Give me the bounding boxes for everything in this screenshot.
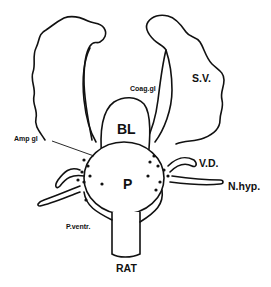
left-seminal-vesicle xyxy=(32,17,106,140)
right-hypogastric-nerve xyxy=(170,176,223,185)
right-seminal-vesicle xyxy=(146,15,224,144)
label-bladder: BL xyxy=(117,121,136,137)
label-coagulating-gland: Coag.gl xyxy=(130,85,156,92)
label-hypogastric-nerve: N.hyp. xyxy=(228,180,260,192)
left-vas-deferens xyxy=(56,169,84,188)
label-ampullary-gland: Amp gl xyxy=(14,135,38,142)
right-vas-deferens xyxy=(168,158,196,172)
left-hypogastric-nerve xyxy=(38,186,80,206)
label-seminal-vesicle: S.V. xyxy=(192,72,211,84)
label-ventral-prostate: P.ventr. xyxy=(66,223,90,230)
label-prostate: P xyxy=(123,176,132,192)
diagram-canvas xyxy=(0,0,271,287)
label-species: RAT xyxy=(116,262,137,274)
label-vas-deferens: V.D. xyxy=(199,157,218,169)
amp-gl-pointer xyxy=(52,141,94,156)
urethra xyxy=(112,212,140,257)
